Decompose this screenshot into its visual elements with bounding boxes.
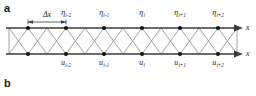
spacing-indicator-label: Δx xyxy=(43,11,51,19)
u-node-label-subscript: i-1 xyxy=(103,62,109,68)
u-node-label: ui xyxy=(139,59,144,67)
eta-node-label: ηi+2 xyxy=(212,9,224,17)
lattice-node-bottom xyxy=(140,52,144,56)
eta-node-label: ηi-1 xyxy=(99,9,109,17)
eta-node-label-subscript: i+2 xyxy=(216,12,224,18)
figure-container: a b Δx x x ηi-2ηi-1ηiηi+1ηi+2 xyxy=(0,0,256,96)
lattice-node-bottom xyxy=(178,52,182,56)
eta-node-label: ηi+1 xyxy=(174,9,186,17)
u-node-label-subscript: i+2 xyxy=(216,62,224,68)
lattice-mesh xyxy=(9,28,237,54)
eta-node-label-subscript: i-2 xyxy=(65,12,71,18)
u-node-label-subscript: i xyxy=(143,62,144,68)
bottom-axis-label: x xyxy=(246,50,250,58)
top-axis-arrowhead xyxy=(234,25,243,32)
lattice-node-top xyxy=(26,26,30,30)
bottom-axis-arrowhead xyxy=(234,51,243,58)
spacing-indicator-arrow-left xyxy=(28,20,33,23)
u-node-label: ui+2 xyxy=(212,59,224,67)
spacing-indicator xyxy=(28,20,66,25)
lattice-node-top xyxy=(178,26,182,30)
spacing-indicator-arrow-right xyxy=(61,20,66,23)
lattice-node-bottom xyxy=(64,52,68,56)
lattice-node-bottom xyxy=(102,52,106,56)
eta-node-label-subscript: i xyxy=(143,12,144,18)
lattice-node-bottom xyxy=(216,52,220,56)
lattice-node-top xyxy=(102,26,106,30)
top-axis-label: x xyxy=(246,24,250,32)
eta-node-label: ηi xyxy=(139,9,144,17)
lattice-node-top xyxy=(64,26,68,30)
lattice-node-top xyxy=(216,26,220,30)
u-node-label: ui-1 xyxy=(99,59,109,67)
eta-node-label: ηi-2 xyxy=(61,9,71,17)
u-node-label: ui+1 xyxy=(174,59,186,67)
eta-node-label-subscript: i+1 xyxy=(178,12,186,18)
u-node-label: ui-2 xyxy=(61,59,71,67)
eta-node-label-subscript: i-1 xyxy=(103,12,109,18)
u-node-label-subscript: i+1 xyxy=(178,62,186,68)
lattice-node-bottom xyxy=(26,52,30,56)
lattice-node-top xyxy=(140,26,144,30)
u-node-label-subscript: i-2 xyxy=(65,62,71,68)
